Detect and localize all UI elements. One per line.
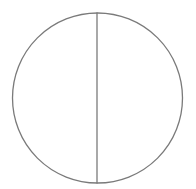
diagram-canvas	[0, 0, 196, 189]
